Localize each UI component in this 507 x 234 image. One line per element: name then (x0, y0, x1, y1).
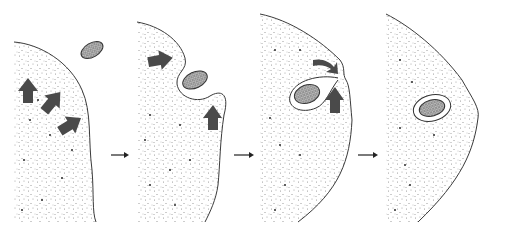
particle (180, 67, 210, 92)
step-arrow-3 (358, 152, 378, 158)
step-arrow-1 (111, 152, 129, 158)
phagocytosis-diagram: Phagocytosis sequence (0, 0, 507, 234)
particle (78, 38, 106, 62)
step-arrow-2 (234, 152, 254, 158)
panel-4 (386, 14, 478, 222)
panel-2 (137, 22, 226, 222)
panel-3 (260, 14, 352, 222)
cell-cytoplasm (14, 42, 96, 222)
cell-cytoplasm (260, 14, 352, 222)
panel-1 (14, 38, 106, 222)
